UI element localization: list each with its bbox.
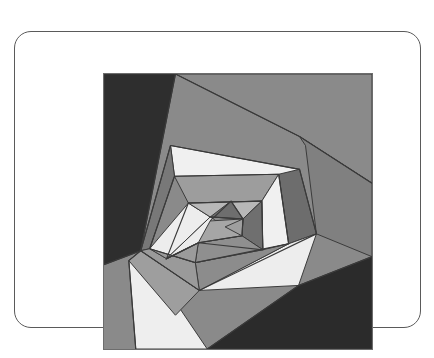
geometric-abstract-artwork [103,73,373,350]
artwork-panel [103,73,373,350]
screenshot-root [0,0,434,358]
artwork-card [14,31,421,328]
